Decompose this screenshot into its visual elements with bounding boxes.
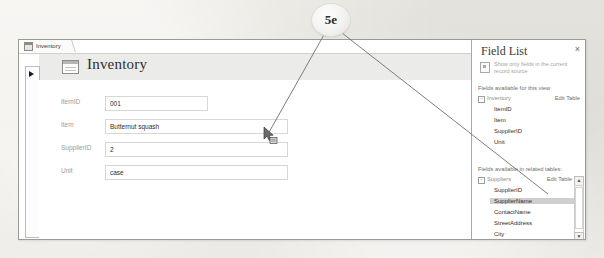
related-field-contactname[interactable]: ContactName — [494, 209, 531, 215]
related-field-streetaddress[interactable]: StreetAddress — [494, 220, 532, 226]
close-icon[interactable]: × — [575, 45, 580, 54]
field-value-supplierid: 2 — [110, 146, 114, 153]
field-value-item: Butternut squash — [110, 123, 159, 130]
field-list-item-itemid[interactable]: ItemID — [494, 106, 512, 112]
callout-label: 5e — [325, 12, 338, 28]
field-list-item-supplierid[interactable]: SupplierID — [494, 128, 522, 134]
record-selector-bar[interactable] — [25, 66, 40, 238]
callout-badge-5e: 5e — [312, 4, 350, 36]
field-list-pane: Field List × Show only fields in the cur… — [471, 40, 586, 239]
table-header-inventory[interactable]: − Inventory Edit Table — [478, 95, 580, 103]
edit-table-link-suppliers[interactable]: Edit Table — [547, 176, 572, 182]
edit-table-link-inventory[interactable]: Edit Table — [555, 95, 580, 101]
field-input-itemid[interactable]: 001 — [105, 96, 208, 111]
field-label-item: Item — [61, 121, 74, 128]
filter-icon — [480, 62, 490, 73]
field-label-itemid: ItemID — [61, 98, 80, 105]
form-icon — [24, 42, 33, 51]
related-tables-caption: Fields available in related tables: — [478, 166, 562, 172]
field-list-title: Field List — [481, 44, 527, 59]
table-name-suppliers: Suppliers — [487, 176, 511, 182]
show-only-fields-toggle[interactable]: Show only fields in the current record s… — [480, 61, 580, 74]
collapse-icon[interactable]: − — [478, 96, 485, 103]
form-title: Inventory — [87, 56, 147, 73]
related-field-supplierid[interactable]: SupplierID — [494, 187, 522, 193]
scroll-down-icon[interactable]: ▼ — [574, 232, 584, 240]
field-input-supplierid[interactable]: 2 — [105, 142, 288, 157]
drag-field-cursor — [262, 126, 280, 146]
current-view-caption: Fields available for this view — [478, 85, 550, 91]
related-field-city[interactable]: City — [494, 231, 504, 237]
access-form-window: Inventory × Inventory ItemID 001 Item Bu… — [18, 39, 586, 240]
field-label-unit: Unit — [61, 167, 73, 174]
show-only-fields-label: Show only fields in the current record s… — [494, 61, 580, 74]
tab-inventory[interactable]: Inventory — [20, 40, 71, 52]
related-field-suppliername[interactable]: SupplierName — [490, 198, 574, 204]
field-list-item-item[interactable]: Item — [494, 117, 506, 123]
tab-inventory-label: Inventory — [36, 43, 61, 49]
collapse-icon-suppliers[interactable]: − — [478, 177, 485, 184]
field-value-unit: case — [110, 169, 124, 176]
field-input-unit[interactable]: case — [105, 165, 288, 180]
table-name-inventory: Inventory — [487, 95, 511, 101]
field-input-item[interactable]: Butternut squash — [105, 119, 288, 134]
record-selector-arrow-icon — [29, 71, 34, 77]
form-view-icon — [62, 60, 79, 74]
field-label-supplierid: SupplierID — [61, 144, 91, 151]
table-header-suppliers[interactable]: − Suppliers Edit Table — [478, 176, 572, 184]
field-list-item-unit[interactable]: Unit — [494, 139, 505, 145]
field-value-itemid: 001 — [110, 100, 121, 107]
scrollbar-thumb[interactable] — [575, 187, 583, 229]
